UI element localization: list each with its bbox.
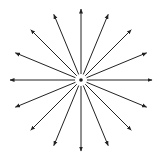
- radial-arrow-diagram: [0, 0, 159, 165]
- center-point: [79, 78, 83, 82]
